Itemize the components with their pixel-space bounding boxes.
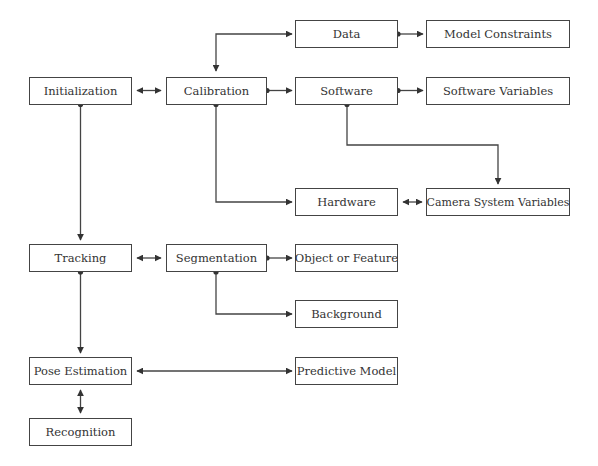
node-software-variables: Software Variables: [426, 77, 570, 105]
node-label: Tracking: [55, 251, 107, 265]
junction-dots: [78, 31, 401, 274]
node-recognition: Recognition: [29, 418, 132, 446]
node-label: Software Variables: [443, 84, 553, 98]
node-camera-system-variables: Camera System Variables: [426, 188, 570, 216]
edge-software-camera: [347, 104, 498, 184]
node-label: Segmentation: [176, 251, 257, 265]
connector-layer: [0, 0, 598, 466]
node-label: Recognition: [46, 425, 116, 439]
node-hardware: Hardware: [295, 188, 398, 216]
node-tracking: Tracking: [29, 244, 132, 272]
node-label: Pose Estimation: [34, 364, 128, 378]
node-data: Data: [295, 20, 398, 48]
node-pose-estimation: Pose Estimation: [29, 357, 132, 385]
edge-calibration-hardware: [216, 104, 292, 202]
node-calibration: Calibration: [166, 77, 267, 105]
node-initialization: Initialization: [29, 77, 132, 105]
node-label: Calibration: [184, 84, 249, 98]
node-label: Predictive Model: [297, 364, 396, 378]
node-segmentation: Segmentation: [166, 244, 267, 272]
node-label: Initialization: [44, 84, 118, 98]
edge-calibration-data: [216, 34, 292, 71]
node-model-constraints: Model Constraints: [426, 20, 570, 48]
node-label: Data: [333, 27, 361, 41]
node-label: Camera System Variables: [426, 196, 569, 209]
node-predictive-model: Predictive Model: [295, 357, 398, 385]
node-label: Background: [311, 307, 382, 321]
node-object-or-feature: Object or Feature: [295, 244, 398, 272]
node-software: Software: [295, 77, 398, 105]
node-label: Software: [320, 84, 373, 98]
node-label: Object or Feature: [295, 251, 398, 265]
edge-segmentation-background: [216, 272, 292, 314]
node-label: Model Constraints: [444, 27, 552, 41]
node-background: Background: [295, 300, 398, 328]
node-label: Hardware: [317, 195, 376, 209]
